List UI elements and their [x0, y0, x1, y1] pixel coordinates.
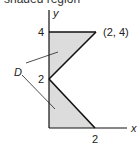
region-label: D	[14, 66, 22, 78]
y-tick-4: 4	[38, 26, 44, 38]
y-tick-2: 2	[38, 73, 44, 85]
y-axis-label: y	[52, 7, 60, 19]
region-diagram: y x 4 2 2 (2, 4) D	[0, 0, 139, 146]
x-tick-2: 2	[92, 133, 98, 145]
point-label: (2, 4)	[103, 26, 129, 38]
x-axis-label: x	[130, 122, 137, 134]
